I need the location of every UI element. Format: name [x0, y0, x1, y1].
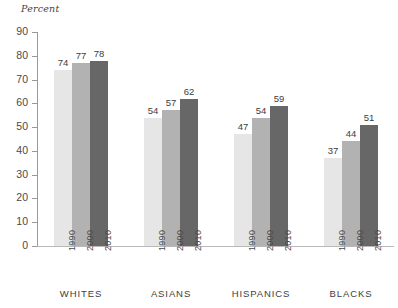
bar-chart: Percent 0102030405060708090 747778545762…	[0, 0, 398, 308]
category-label: BLACKS	[330, 288, 373, 299]
bar-value-label: 78	[94, 48, 105, 59]
y-axis-tick: 0	[32, 246, 37, 247]
category-label: HISPANICS	[232, 288, 291, 299]
bar-group: 545762	[144, 32, 198, 246]
bar-group: 374451	[324, 32, 378, 246]
y-tick-label: 50	[16, 120, 28, 132]
y-tick-label: 20	[16, 191, 28, 203]
bar: 54	[144, 118, 162, 246]
bar: 74	[54, 70, 72, 246]
bar-value-label: 59	[274, 93, 285, 104]
bar-value-label: 37	[328, 145, 339, 156]
bar-value-label: 74	[58, 57, 69, 68]
y-tick-label: 0	[22, 239, 28, 251]
category-label: ASIANS	[151, 288, 191, 299]
bar-value-label: 57	[166, 97, 177, 108]
bar-value-label: 47	[238, 121, 249, 132]
bar-value-label: 77	[76, 50, 87, 61]
bar-value-label: 54	[256, 105, 267, 116]
y-tick-label: 30	[16, 168, 28, 180]
y-tick-label: 70	[16, 73, 28, 85]
bar-value-label: 44	[346, 128, 357, 139]
y-tick-label: 60	[16, 96, 28, 108]
y-tick-label: 90	[16, 25, 28, 37]
y-tick-mark	[32, 246, 37, 247]
bar: 59	[270, 106, 288, 246]
bar-value-label: 51	[364, 112, 375, 123]
bar: 51	[360, 125, 378, 246]
bar: 62	[180, 99, 198, 246]
bar: 78	[90, 61, 108, 246]
bar: 57	[162, 110, 180, 246]
y-axis-title: Percent	[21, 3, 59, 14]
bar-value-label: 62	[184, 86, 195, 97]
bar-group: 475459	[234, 32, 288, 246]
y-tick-label: 80	[16, 49, 28, 61]
plot-area: 747778545762475459374451	[37, 32, 394, 246]
bar-value-label: 54	[148, 105, 159, 116]
bar: 77	[72, 63, 90, 246]
category-label: WHITES	[60, 288, 102, 299]
y-tick-label: 10	[16, 215, 28, 227]
bar-group: 747778	[54, 32, 108, 246]
y-tick-label: 40	[16, 144, 28, 156]
bar: 54	[252, 118, 270, 246]
